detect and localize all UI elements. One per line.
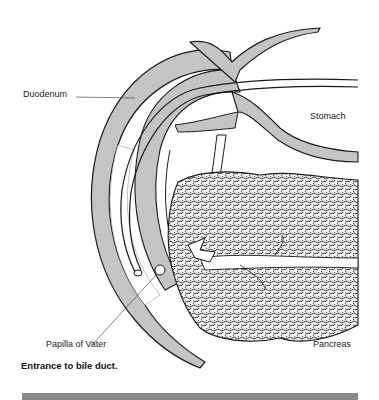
papilla-label: Papilla of Vater [46, 339, 106, 349]
bottom-divider-bar [22, 393, 358, 400]
stomach-label: Stomach [310, 111, 346, 121]
figure-caption: Entrance to bile duct. [21, 360, 118, 371]
duodenum-label: Duodenum [23, 89, 67, 99]
pancreas-label: Pancreas [313, 339, 351, 349]
